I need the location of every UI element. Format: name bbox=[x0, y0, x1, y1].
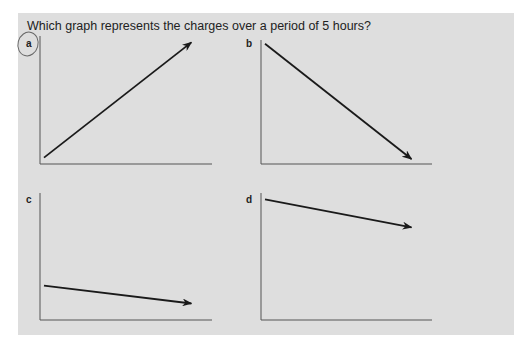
graph-c[interactable] bbox=[40, 193, 212, 320]
trend-arrow bbox=[44, 42, 191, 157]
graph-a[interactable] bbox=[40, 36, 212, 164]
selection-circle bbox=[15, 30, 41, 58]
graph-b[interactable] bbox=[261, 40, 432, 164]
trend-arrow bbox=[265, 44, 411, 159]
graphs-canvas bbox=[0, 0, 527, 352]
trend-arrow bbox=[265, 199, 411, 227]
graph-d[interactable] bbox=[261, 193, 432, 320]
trend-arrow bbox=[44, 286, 191, 304]
